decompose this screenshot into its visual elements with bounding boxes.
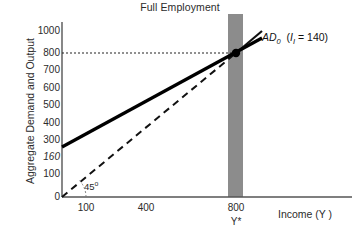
forty-five-degree-line: [62, 53, 236, 197]
angle-arc: [79, 180, 86, 197]
equilibrium-point-marker: [232, 49, 240, 57]
plot-canvas: [0, 0, 360, 241]
full-employment-band: [228, 14, 243, 197]
chart-figure: Full Employment Aggregate Demand and Out…: [0, 0, 360, 241]
